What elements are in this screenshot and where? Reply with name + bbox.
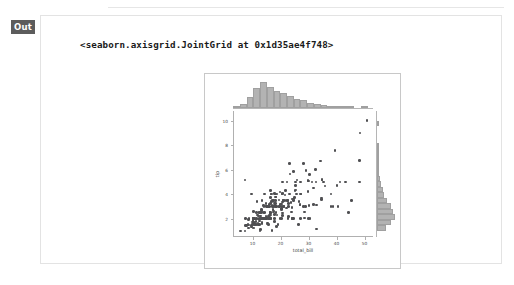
scatter-point: [260, 211, 263, 214]
scatter-point: [261, 222, 264, 225]
scatter-point: [281, 193, 284, 196]
marginal-y-bar: [377, 159, 379, 165]
marginal-y-bar: [377, 121, 379, 127]
scatter-point: [330, 193, 333, 196]
scatter-point: [319, 160, 322, 163]
x-tick-label: 20: [278, 241, 283, 246]
marginal-y-bar: [377, 214, 395, 220]
scatter-point: [322, 181, 325, 184]
y-tick-mark: [231, 219, 234, 220]
y-tick-label: 6: [225, 167, 228, 172]
y-tick-label: 4: [225, 192, 228, 197]
marginal-y-bar: [377, 192, 384, 198]
scatter-point: [293, 196, 296, 199]
x-axis-spine: [233, 236, 373, 237]
scatter-point: [300, 193, 303, 196]
scatter-point: [302, 162, 305, 165]
scatter-point: [245, 224, 248, 227]
y-tick-label: 10: [223, 118, 228, 123]
scatter-point: [267, 223, 270, 226]
scatter-point: [336, 184, 339, 187]
scatter-point: [263, 193, 266, 196]
scatter-point: [284, 194, 287, 197]
scatter-points-layer: [233, 111, 373, 237]
scatter-point: [344, 181, 347, 184]
scatter-point: [263, 205, 266, 208]
output-repr-text: <seaborn.axisgrid.JointGrid at 0x1d35ae4…: [80, 39, 333, 50]
scatter-point: [272, 205, 275, 208]
scatter-point: [298, 200, 301, 203]
scatter-point: [297, 223, 300, 226]
scatter-point: [273, 220, 276, 223]
scatter-point: [299, 217, 302, 220]
x-tick-mark: [309, 237, 310, 240]
scatter-point: [272, 208, 275, 211]
output-cell-card: <seaborn.axisgrid.JointGrid at 0x1d35ae4…: [40, 15, 502, 264]
y-tick-mark: [231, 170, 234, 171]
x-tick-label: 10: [250, 241, 255, 246]
x-tick-mark: [253, 237, 254, 240]
scatter-point: [281, 181, 284, 184]
scatter-point: [350, 199, 353, 202]
marginal-x-bar: [253, 88, 260, 108]
scatter-point: [244, 179, 247, 182]
scatter-point: [275, 225, 278, 228]
joint-scatter-axes: 1020304050 246810 total_bill tip: [233, 111, 373, 237]
scatter-point: [288, 193, 291, 196]
y-axis-label: tip: [215, 171, 220, 177]
marginal-x-bar: [267, 87, 274, 108]
scatter-point: [299, 181, 302, 184]
marginal-x-bar: [300, 100, 307, 108]
scatter-point: [324, 185, 327, 188]
scatter-point: [308, 204, 311, 207]
y-tick-mark: [231, 121, 234, 122]
scatter-point: [270, 193, 273, 196]
scatter-point: [334, 149, 337, 152]
scatter-point: [278, 199, 281, 202]
marginal-y-bar: [377, 170, 379, 176]
x-tick-mark: [337, 237, 338, 240]
scatter-point: [244, 230, 247, 233]
marginal-y-bar: [377, 176, 380, 182]
x-tick-mark: [365, 237, 366, 240]
marginal-x-histogram-axes: [233, 81, 373, 109]
marginal-y-bar: [377, 209, 393, 215]
scatter-point: [295, 193, 298, 196]
scatter-point: [274, 199, 277, 202]
scatter-point: [291, 206, 294, 209]
scatter-point: [239, 230, 242, 233]
scatter-point: [250, 193, 253, 196]
scatter-point: [296, 179, 299, 182]
x-tick-label: 50: [362, 241, 367, 246]
scatter-point: [287, 202, 290, 205]
scatter-point: [259, 230, 262, 233]
scatter-point: [292, 170, 295, 173]
scatter-point: [247, 218, 250, 221]
scatter-point: [315, 204, 318, 207]
scatter-point: [267, 217, 270, 220]
scatter-point: [332, 205, 335, 208]
scatter-point: [291, 217, 294, 220]
scatter-point: [285, 207, 288, 210]
y-tick-mark: [231, 145, 234, 146]
marginal-y-bar: [377, 143, 379, 149]
marginal-y-bar: [377, 203, 391, 209]
matplotlib-figure: 1020304050 246810 total_bill tip: [204, 73, 401, 269]
marginal-y-bar: [377, 165, 379, 171]
marginal-x-bar: [294, 99, 301, 108]
scatter-point: [302, 205, 305, 208]
scatter-point: [256, 200, 259, 203]
marginal-y-bar: [377, 148, 379, 154]
marginal-x-baseline: [233, 108, 373, 109]
scatter-point: [292, 199, 295, 202]
marginal-x-bar: [274, 91, 281, 108]
scatter-point: [337, 205, 340, 208]
divider-line: [108, 7, 504, 8]
scatter-point: [347, 211, 350, 214]
y-tick-label: 8: [225, 143, 228, 148]
scatter-point: [281, 214, 284, 217]
scatter-point: [312, 187, 315, 190]
x-axis-label: total_bill: [293, 248, 313, 253]
scatter-point: [299, 203, 302, 206]
marginal-y-bar: [377, 220, 391, 226]
